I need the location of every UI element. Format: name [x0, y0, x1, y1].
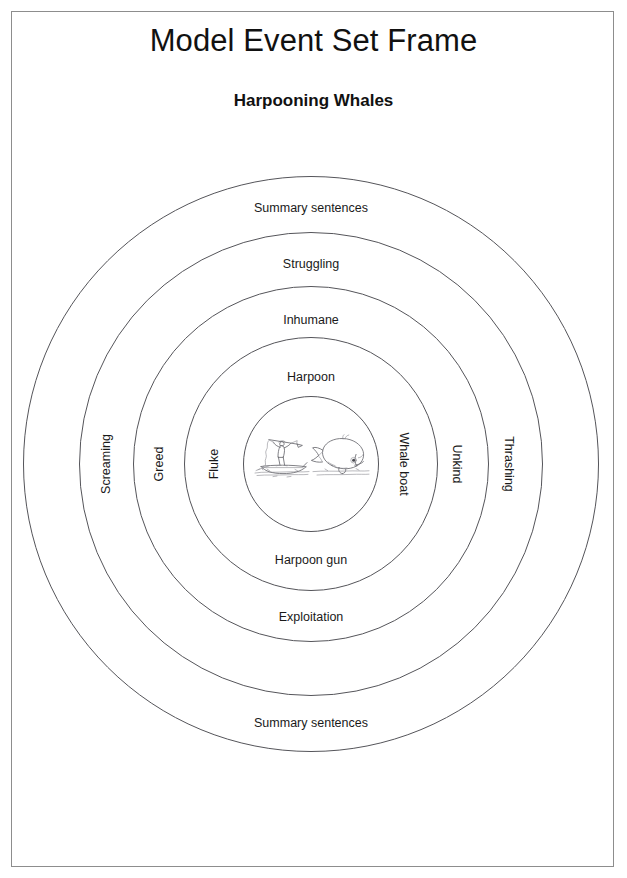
ring-3-label-bottom: Exploitation: [279, 611, 344, 624]
ring-2-label-right: Whale boat: [398, 432, 411, 495]
ring-4-label-left: Screaming: [100, 434, 113, 494]
ring-2-label-top: Harpoon: [287, 371, 335, 384]
ring-5-label-bottom: Summary sentences: [254, 717, 368, 730]
ring-2-label-left: Fluke: [208, 449, 221, 480]
ring-2-label-bottom: Harpoon gun: [275, 554, 347, 567]
ring-3-label-left: Greed: [153, 447, 166, 482]
page-canvas: Model Event Set Frame Harpooning Whales: [0, 0, 627, 878]
ring-3-label-top: Inhumane: [283, 314, 339, 327]
concentric-ring-diagram: Summary sentences Struggling Inhumane Ha…: [0, 0, 627, 878]
page-footer-artifact: [18, 869, 188, 878]
ring-4-label-top: Struggling: [283, 258, 339, 271]
whaling-scene-illustration: [253, 424, 371, 486]
ring-5-label-top: Summary sentences: [254, 202, 368, 215]
ring-4-label-right: Thrashing: [503, 436, 516, 492]
ring-3-label-right: Unkind: [451, 445, 464, 484]
